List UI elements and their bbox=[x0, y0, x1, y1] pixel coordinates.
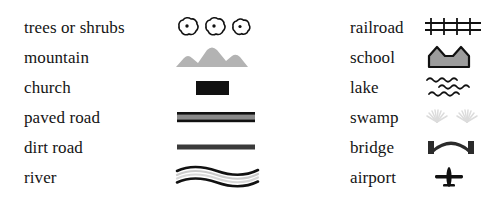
legend-row-paved-road: paved road bbox=[24, 102, 270, 132]
legend-column-left: trees or shrubs bbox=[0, 12, 270, 212]
legend-row-bridge: bridge bbox=[350, 132, 501, 162]
legend-label-swamp: swamp bbox=[350, 109, 421, 126]
legend-label-airport: airport bbox=[350, 169, 421, 186]
legend-row-swamp: swamp bbox=[350, 102, 501, 132]
legend-label-lake: lake bbox=[350, 79, 421, 96]
school-symbol bbox=[421, 42, 501, 72]
legend-row-airport: airport bbox=[350, 162, 501, 192]
legend-row-church: church bbox=[24, 72, 270, 102]
legend-label-bridge: bridge bbox=[350, 139, 421, 156]
legend-row-school: school bbox=[350, 42, 501, 72]
swamp-symbol bbox=[421, 102, 501, 132]
map-legend: trees or shrubs bbox=[0, 0, 501, 212]
legend-label-paved-road: paved road bbox=[24, 109, 168, 126]
dirt-road-symbol bbox=[168, 132, 270, 162]
legend-label-dirt-road: dirt road bbox=[24, 139, 168, 156]
bridge-symbol bbox=[421, 132, 501, 162]
legend-row-lake: lake bbox=[350, 72, 501, 102]
church-symbol bbox=[168, 72, 270, 102]
lake-symbol bbox=[421, 72, 501, 102]
trees-symbol bbox=[168, 12, 270, 42]
legend-row-trees-or-shrubs: trees or shrubs bbox=[24, 12, 270, 42]
legend-row-railroad: railroad bbox=[350, 12, 501, 42]
mountain-symbol bbox=[168, 42, 270, 72]
legend-label-church: church bbox=[24, 79, 168, 96]
legend-label-mountain: mountain bbox=[24, 49, 168, 66]
paved-road-symbol bbox=[168, 102, 270, 132]
railroad-symbol bbox=[421, 12, 501, 42]
legend-row-dirt-road: dirt road bbox=[24, 132, 270, 162]
legend-column-right: railroad school bbox=[270, 12, 501, 212]
legend-row-mountain: mountain bbox=[24, 42, 270, 72]
legend-label-railroad: railroad bbox=[350, 19, 421, 36]
legend-label-trees-or-shrubs: trees or shrubs bbox=[24, 19, 168, 36]
legend-label-school: school bbox=[350, 49, 421, 66]
river-symbol bbox=[168, 162, 270, 192]
legend-label-river: river bbox=[24, 169, 168, 186]
airport-symbol bbox=[421, 162, 501, 192]
legend-row-river: river bbox=[24, 162, 270, 192]
